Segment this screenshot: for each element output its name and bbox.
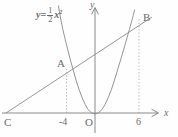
y-axis-label: y [90,0,94,10]
point-label-b: B [143,12,150,23]
math-figure: y= 1 2 x2 A B C O -4 6 x y [0,0,178,137]
origin-label: O [85,117,93,128]
point-label-a: A [57,58,65,69]
point-label-c: C [4,117,11,128]
equation-fraction: 1 2 [47,7,53,25]
tick-label-minus-4: -4 [59,117,67,127]
equation-exponent: 2 [59,9,62,15]
equation-denominator: 2 [47,16,53,24]
parabola-curve [59,6,135,114]
x-axis-label: x [164,108,168,118]
secant-line [6,17,152,113]
equation-label: y= 1 2 x2 [36,7,62,25]
tick-label-6: 6 [136,117,141,127]
equation-equals: = [40,9,46,20]
